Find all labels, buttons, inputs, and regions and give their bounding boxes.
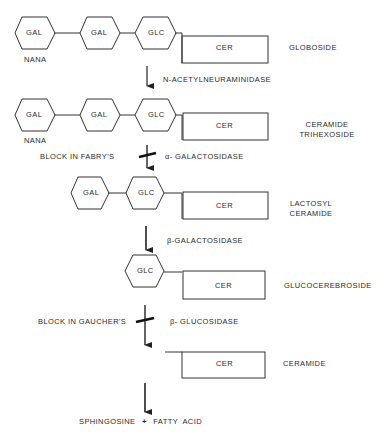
molecule-name: GLUCOCEREBROSIDE xyxy=(284,281,372,291)
row-ceramide xyxy=(165,352,265,378)
row-lactosyl-ceramide xyxy=(71,177,268,219)
enzyme-label: α- GALACTOSIDASE xyxy=(165,152,244,162)
product-fatty-acid: FATTY ACID xyxy=(153,417,202,426)
sugar-label: GAL xyxy=(91,28,107,38)
molecule-name-line: CERAMIDE xyxy=(285,209,337,219)
molecule-name-line: TRIHEXOSIDE xyxy=(292,130,362,140)
sugar-label: GAL xyxy=(26,28,42,38)
lipid-label: CER xyxy=(216,359,233,369)
lipid-label: CER xyxy=(216,121,233,131)
sugar-label: GLC xyxy=(137,266,154,276)
plus-sign: + xyxy=(142,417,147,426)
molecule-name: GLOBOSIDE xyxy=(289,43,337,53)
product-sphingosine: SPHINGOSINE xyxy=(79,417,136,426)
sugar-label: GAL xyxy=(26,110,42,120)
pathway-diagram xyxy=(0,0,383,439)
sugar-label: GAL xyxy=(91,110,107,120)
products: SPHINGOSINE + FATTY ACID xyxy=(79,417,202,427)
lipid-label: CER xyxy=(215,281,232,291)
molecule-name: CERAMIDE xyxy=(283,359,326,369)
row-glucocerebroside xyxy=(125,255,265,299)
enzyme-label: N-ACETYLNEURAMINIDASE xyxy=(163,75,271,85)
sugar-label: GAL xyxy=(83,188,99,198)
enzyme-label: β- GLUCOSIDASE xyxy=(170,317,239,327)
sugar-label: GLC xyxy=(148,28,165,38)
molecule-name-line: CERAMIDE xyxy=(292,120,362,130)
branch-label: NANA xyxy=(24,136,46,146)
molecule-name: CERAMIDE TRIHEXOSIDE xyxy=(292,120,362,140)
lipid-label: CER xyxy=(216,43,233,53)
row-globoside xyxy=(15,17,268,63)
sugar-label: GLC xyxy=(148,110,165,120)
sugar-label: GLC xyxy=(138,188,155,198)
enzyme-label: β-GALACTOSIDASE xyxy=(167,236,243,246)
molecule-name-line: LACTOSYL xyxy=(285,199,337,209)
block-label: BLOCK IN GAUCHER'S xyxy=(38,317,126,327)
molecule-name: LACTOSYL CERAMIDE xyxy=(285,199,337,219)
block-label: BLOCK IN FABRY'S xyxy=(40,152,114,162)
row-ceramide-trihexoside xyxy=(15,99,268,140)
branch-label: NANA xyxy=(24,55,46,65)
lipid-label: CER xyxy=(216,201,233,211)
